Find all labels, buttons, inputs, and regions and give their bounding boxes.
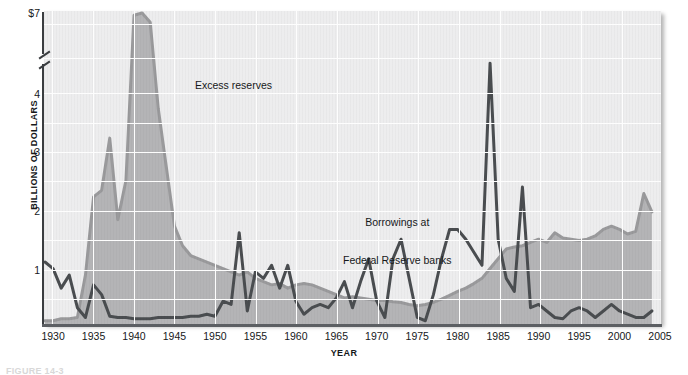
gridline-horizontal (44, 24, 661, 25)
x-tick-label: 1935 (71, 331, 117, 342)
y-axis-upper-segment (42, 12, 44, 54)
gridline-horizontal (44, 93, 661, 94)
gridline-vertical (540, 11, 541, 324)
gridline-vertical (174, 11, 175, 324)
x-tick-label: 1965 (313, 331, 359, 342)
gridline-horizontal (44, 181, 661, 182)
gridline-vertical (215, 11, 216, 324)
gridline-vertical (52, 11, 53, 324)
y-axis-tick-labels: $7 4 3 2 1 (0, 0, 40, 375)
x-tick-label: 1980 (435, 331, 481, 342)
y-tick-label: 2 (2, 206, 40, 217)
plot-area: Excess reserves Borrowings at Federal Re… (44, 11, 661, 324)
gridline-vertical (256, 11, 257, 324)
figure-caption: FIGURE 14-3 (6, 366, 64, 375)
x-tick-label: 2000 (597, 331, 643, 342)
x-tick-label: 1945 (151, 331, 197, 342)
annotation-borrowings-line2: Federal Reserve banks (343, 254, 452, 267)
x-tick-label: 1975 (394, 331, 440, 342)
gridline-vertical (296, 11, 297, 324)
x-tick-label: 1985 (475, 331, 521, 342)
x-tick-label: 1995 (556, 331, 602, 342)
x-axis-title: YEAR (0, 348, 688, 358)
y-axis-lower-segment (42, 64, 44, 326)
figure-container: BILLIONS OF DOLLARS $7 4 3 2 1 (0, 0, 688, 375)
x-tick-label: 1930 (30, 331, 76, 342)
gridline-vertical (93, 11, 94, 324)
x-tick-label: 1950 (192, 331, 238, 342)
x-tick-label: 2005 (637, 331, 683, 342)
gridline-vertical (337, 11, 338, 324)
x-tick-label: 1960 (273, 331, 319, 342)
gridline-vertical (622, 11, 623, 324)
x-tick-label: 1970 (354, 331, 400, 342)
y-tick-label: $7 (2, 8, 40, 19)
gridline-horizontal (44, 123, 661, 124)
gridline-vertical (134, 11, 135, 324)
annotation-borrowings-line1: Borrowings at (343, 216, 452, 229)
y-tick-label: 3 (2, 147, 40, 158)
gridline-horizontal (44, 299, 661, 300)
gridline-vertical (459, 11, 460, 324)
y-tick-label: 1 (2, 265, 40, 276)
gridline-horizontal (44, 58, 661, 59)
gridline-horizontal (44, 152, 661, 153)
annotation-excess-reserves: Excess reserves (195, 79, 272, 92)
annotation-borrowings: Borrowings at Federal Reserve banks (343, 191, 452, 291)
x-axis-line (42, 324, 662, 327)
y-tick-label: 4 (2, 89, 40, 100)
gridline-vertical (500, 11, 501, 324)
x-tick-label: 1955 (232, 331, 278, 342)
x-axis-tick-labels: 1930193519401945195019551960196519701975… (0, 331, 688, 347)
x-tick-label: 1940 (111, 331, 157, 342)
gridline-vertical (581, 11, 582, 324)
x-tick-label: 1990 (516, 331, 562, 342)
